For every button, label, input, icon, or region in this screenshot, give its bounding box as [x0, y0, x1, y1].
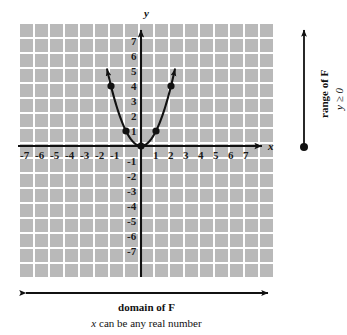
range-endpoint-dot — [300, 143, 308, 151]
domain-condition-text: can be any real number — [96, 317, 201, 329]
point-neg2-4 — [107, 82, 114, 89]
y-tick-1: 1 — [131, 126, 137, 137]
y-tick-neg7: -7 — [127, 246, 136, 257]
y-tick-7: 7 — [131, 36, 137, 47]
x-tick-6: 6 — [228, 150, 234, 161]
domain-label: domain of F — [0, 302, 293, 313]
y-tick-3: 3 — [131, 96, 137, 107]
y-axis-label: y — [144, 8, 149, 19]
x-tick-4: 4 — [198, 150, 204, 161]
y-tick-neg2: -2 — [127, 171, 136, 182]
x-tick-neg2: -2 — [95, 150, 104, 161]
point-origin — [137, 142, 144, 149]
y-tick-neg3: -3 — [127, 186, 136, 197]
x-tick-neg5: -5 — [50, 150, 59, 161]
y-tick-neg5: -5 — [127, 216, 136, 227]
x-tick-neg4: -4 — [65, 150, 74, 161]
x-tick-3: 3 — [183, 150, 189, 161]
coordinate-plane-svg — [0, 0, 347, 335]
y-tick-neg6: -6 — [127, 231, 136, 242]
range-condition: y ≥ 0 — [333, 88, 345, 110]
x-tick-neg1: -1 — [110, 150, 119, 161]
point-1-1 — [152, 127, 159, 134]
range-label: range of F — [318, 70, 330, 118]
domain-condition: x can be any real number — [0, 318, 293, 329]
y-tick-2: 2 — [131, 111, 137, 122]
x-tick-neg3: -3 — [80, 150, 89, 161]
x-tick-1: 1 — [153, 150, 159, 161]
point-2-4 — [167, 82, 174, 89]
x-tick-5: 5 — [213, 150, 219, 161]
x-tick-neg7: -7 — [20, 150, 29, 161]
x-tick-2: 2 — [168, 150, 174, 161]
range-indicator — [300, 30, 308, 151]
y-tick-5: 5 — [131, 66, 137, 77]
y-tick-6: 6 — [131, 51, 137, 62]
x-tick-neg6: -6 — [35, 150, 44, 161]
y-tick-neg1: -1 — [127, 156, 136, 167]
graph-figure: y x -7 -6 -5 -4 -3 -2 -1 1 2 3 4 5 6 7 1… — [0, 0, 347, 335]
y-tick-neg4: -4 — [127, 201, 136, 212]
y-tick-4: 4 — [131, 81, 137, 92]
x-axis-label: x — [268, 141, 274, 152]
x-tick-7: 7 — [243, 150, 249, 161]
point-neg1-1 — [122, 127, 129, 134]
